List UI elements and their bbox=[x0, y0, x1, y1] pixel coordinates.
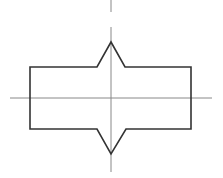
drawing-canvas bbox=[0, 0, 223, 178]
technical-drawing bbox=[0, 0, 223, 178]
